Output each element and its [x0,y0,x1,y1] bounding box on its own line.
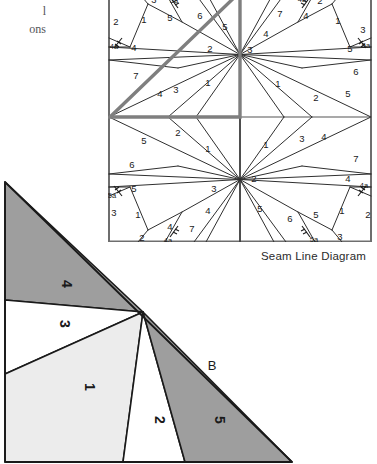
seam-piece-label: 1 [339,205,344,216]
seam-piece-label: 5a [170,0,179,5]
unit-piece-label-4: 4 [59,280,75,288]
seam-piece-label: 7 [133,70,138,81]
seam-piece-label: 2 [365,209,370,220]
seam-piece-label: 5 [222,21,227,32]
seam-piece-label: 7 [353,153,358,164]
seam-piece-label: 6 [129,159,134,170]
seam-piece-label: 2 [313,92,318,103]
seam-piece-label: 3 [360,24,365,35]
seam-piece-label: 4a [360,181,369,190]
seam-piece-label: 1 [263,139,268,150]
seam-piece-label: 1 [141,14,146,25]
seam-piece-label: 4 [157,88,162,99]
seam-piece-label: 7 [277,8,282,19]
seam-piece-label: 5a [310,235,319,242]
seam-piece-label: 1 [205,143,210,154]
seam-piece-label: 4 [345,173,350,184]
caption-line-2: ons [0,20,46,38]
seam-piece-label: 3 [299,133,304,144]
seam-piece-label: 5a [362,41,371,50]
unit-b-triangle-diagram: 12345B [0,172,300,464]
seam-piece-label: 3 [173,84,178,95]
seam-piece-label: 2 [175,127,180,138]
seam-piece-label: 1 [335,15,340,26]
seam-piece-label: 6 [197,10,202,21]
unit-piece-label-3: 3 [57,320,73,328]
seam-piece-label: 5 [141,135,146,146]
seam-piece-label: 3 [247,44,252,55]
unit-piece-label-2: 2 [152,416,168,424]
seam-piece-label: 1 [205,77,210,88]
seam-piece-label: 5 [347,43,352,54]
caption-line-1: l [0,2,46,20]
seam-piece-label: 4 [263,28,268,39]
seam-piece-label: 2 [317,0,322,6]
unit-label-b: B [208,358,217,373]
seam-piece-label: 2 [207,43,212,54]
seam-piece-label: 3 [151,0,156,5]
unit-piece-label-5: 5 [212,416,228,424]
seam-piece-label: 1 [275,78,280,89]
seam-piece-label: 4a [110,42,119,51]
seam-piece-label: 3 [337,231,342,242]
seam-piece-label: 2 [113,16,118,27]
clipped-caption-text: l ons [0,2,46,38]
seam-piece-label: 4 [303,10,308,21]
seam-piece-label: 4a [298,0,307,4]
seam-piece-label: 6 [353,66,358,77]
seam-piece-label: 5 [313,209,318,220]
unit-piece-label-1: 1 [82,383,98,391]
seam-piece-label: 4 [321,131,326,142]
seam-piece-label: 5 [345,88,350,99]
seam-piece-label: 4 [131,42,136,53]
seam-piece-label: 5 [167,12,172,23]
page-root: l ons [0,0,377,464]
